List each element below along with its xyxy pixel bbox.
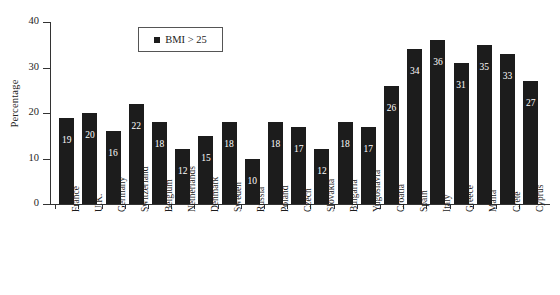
- x-axis-category-label: Yugoslavia: [372, 170, 382, 212]
- x-axis-category-label: Switzerland: [140, 167, 150, 212]
- bar-value-label: 18: [340, 140, 350, 150]
- x-axis-category-label: Germany: [117, 177, 127, 212]
- x-axis-category-label: U.K.: [94, 194, 104, 212]
- x-axis-category-label: Greece: [465, 185, 475, 212]
- y-axis-line: [50, 22, 51, 204]
- legend-box: BMI > 25: [138, 27, 223, 52]
- x-axis-tick: [55, 204, 56, 209]
- bar-value-label: 27: [526, 99, 536, 109]
- bar-value-label: 31: [456, 81, 466, 91]
- x-axis-category-label: Bulgaria: [349, 179, 359, 212]
- x-axis-category-label: Netherlands: [187, 166, 197, 212]
- x-axis-category-label: Croatia: [396, 184, 406, 212]
- x-axis-category-label: Malta: [488, 190, 498, 212]
- bar-chart-figure: Percentage 010203040 1920162218121518101…: [0, 0, 560, 295]
- y-axis-tick-label: 30: [29, 61, 40, 72]
- x-axis-category-label: Spain: [419, 190, 429, 212]
- x-axis-category-label: France: [71, 186, 81, 212]
- x-axis-category-label: Crete: [512, 191, 522, 212]
- bar-value-label: 20: [85, 131, 95, 141]
- bar: 33: [500, 54, 515, 204]
- y-axis-tick: 20: [43, 113, 50, 114]
- bar: 35: [477, 45, 492, 204]
- x-axis-category-label: Slovakia: [326, 179, 336, 212]
- bar-value-label: 22: [132, 122, 142, 132]
- bar-value-label: 16: [108, 149, 118, 159]
- bar-value-label: 18: [271, 140, 281, 150]
- bar-value-label: 12: [317, 167, 327, 177]
- y-axis-tick-label: 20: [29, 106, 40, 117]
- bar-value-label: 33: [503, 72, 513, 82]
- x-axis-category-label: Sweden: [233, 182, 243, 212]
- x-axis-category-label: Russia: [256, 187, 266, 212]
- x-axis-category-label: Poland: [280, 186, 290, 212]
- y-axis-tick-label: 10: [29, 152, 40, 163]
- bar: 34: [407, 49, 422, 204]
- bar-value-label: 10: [248, 177, 258, 187]
- y-axis-tick: 0: [43, 204, 50, 205]
- x-axis-category-label: Belgium: [164, 179, 174, 212]
- y-axis-tick: 40: [43, 22, 50, 23]
- x-axis-category-label: Italy: [442, 195, 452, 212]
- y-axis-title: Percentage: [9, 64, 20, 144]
- bar-value-label: 18: [155, 140, 165, 150]
- x-axis-category-label: Czech: [303, 188, 313, 212]
- bar-value-label: 35: [480, 63, 490, 73]
- bar: 36: [430, 40, 445, 204]
- bar-value-label: 15: [201, 154, 211, 164]
- bar-value-label: 18: [224, 140, 234, 150]
- bar-value-label: 17: [364, 145, 374, 155]
- legend-label: BMI > 25: [165, 34, 207, 45]
- y-axis-tick-label: 40: [29, 15, 40, 26]
- bar-value-label: 36: [433, 58, 443, 68]
- y-axis-tick-label: 0: [34, 197, 39, 208]
- bar-value-label: 17: [294, 145, 304, 155]
- bar: 20: [82, 113, 97, 204]
- bar-value-label: 19: [62, 136, 72, 146]
- bar-value-label: 34: [410, 67, 420, 77]
- y-axis-tick: 10: [43, 159, 50, 160]
- legend-swatch-icon: [154, 37, 160, 43]
- bar-value-label: 12: [178, 167, 188, 177]
- x-axis-category-label: Denmark: [210, 177, 220, 212]
- bar-value-label: 26: [387, 104, 397, 114]
- bar: 31: [454, 63, 469, 204]
- y-axis-tick: 30: [43, 68, 50, 69]
- x-axis-category-label: Cyprus: [535, 185, 545, 212]
